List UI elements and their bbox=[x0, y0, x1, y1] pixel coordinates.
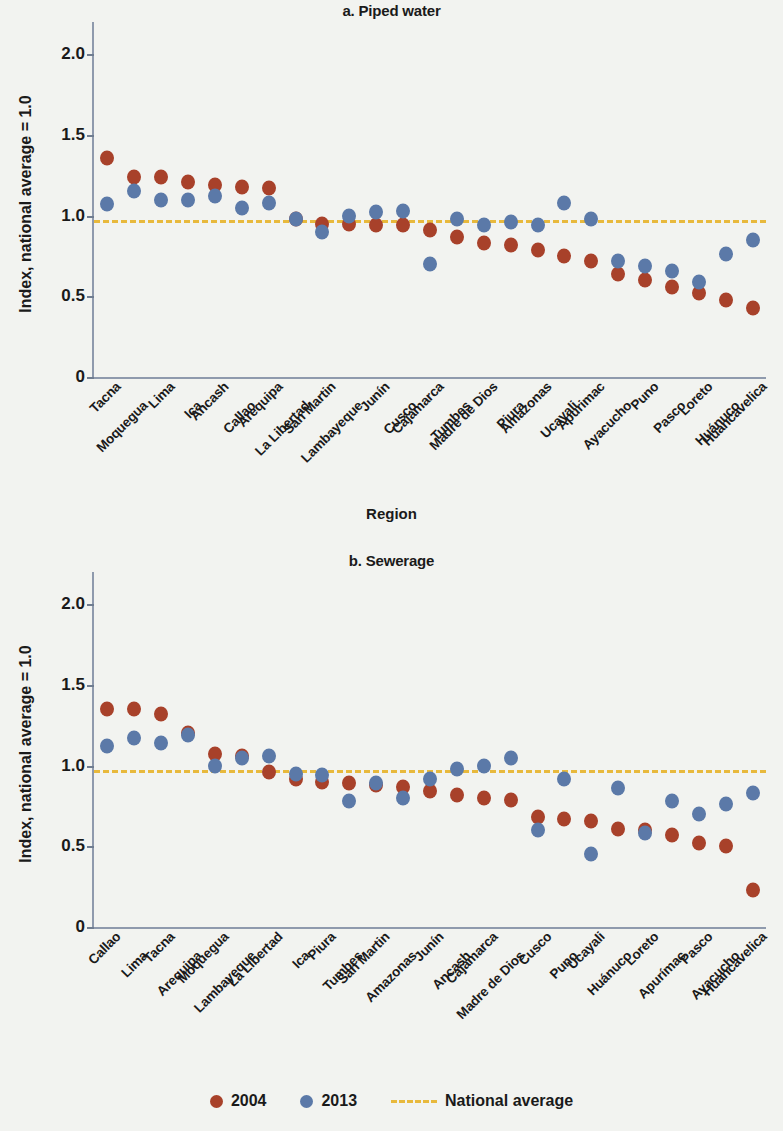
data-point-2013-ucayali bbox=[584, 847, 598, 862]
data-point-2004-tumbes bbox=[450, 229, 464, 244]
data-point-2004-apurímac bbox=[665, 828, 679, 843]
data-point-2013-tumbes bbox=[450, 211, 464, 226]
data-point-2004-madre-de-dios bbox=[504, 792, 518, 807]
data-point-2013-piura bbox=[315, 768, 329, 783]
x-tick-label-la-libertad: La Libertad bbox=[225, 929, 286, 990]
panel-b-plot-area: 00.51.01.52.0 bbox=[92, 572, 766, 929]
data-point-2013-cusco bbox=[531, 823, 545, 838]
y-tick-1.5: 1.5 bbox=[61, 675, 94, 695]
data-point-2004-moquegua bbox=[127, 169, 141, 184]
data-point-2004-apurimac bbox=[584, 253, 598, 268]
x-tick-label-tacna: Tacna bbox=[141, 929, 178, 966]
panel-a-plot-area: 00.51.01.52.0 bbox=[92, 22, 766, 379]
data-point-2013-ancash bbox=[208, 189, 222, 204]
data-point-2004-cajamarca bbox=[423, 223, 437, 238]
data-point-2004-arequipa bbox=[262, 181, 276, 196]
data-point-2013-apurimac bbox=[584, 211, 598, 226]
data-point-2004-ucayali bbox=[584, 813, 598, 828]
panel-b-x-tick-labels: CallaoLimaTacnaArequipaMoqueguaLambayequ… bbox=[92, 929, 764, 1049]
legend-dashed-line-icon bbox=[391, 1100, 437, 1103]
data-point-2004-cajamarca bbox=[477, 790, 491, 805]
data-point-2004-cusco bbox=[396, 218, 410, 233]
data-point-2004-lima bbox=[127, 702, 141, 717]
x-tick-label-loreto: Loreto bbox=[622, 929, 661, 968]
data-point-2013-cusco bbox=[396, 203, 410, 218]
data-point-2013-huancavelica bbox=[746, 232, 760, 247]
data-point-2013-cajamarca bbox=[423, 257, 437, 272]
panel-b-y-axis-label: Index, national average = 1.0 bbox=[17, 624, 35, 884]
data-point-2004-la-libertad bbox=[262, 765, 276, 780]
data-point-2013-ayacucho bbox=[719, 797, 733, 812]
legend-label: National average bbox=[445, 1093, 573, 1109]
panel-a-title: a. Piped water bbox=[0, 2, 783, 19]
data-point-2004-pasco bbox=[665, 279, 679, 294]
legend-label: 2004 bbox=[231, 1093, 267, 1109]
legend-dot-icon-2013 bbox=[300, 1095, 313, 1108]
data-point-2013-amazonas bbox=[396, 790, 410, 805]
data-point-2004-tacna bbox=[100, 150, 114, 165]
data-point-2004-pasco bbox=[692, 836, 706, 851]
data-point-2013-arequipa bbox=[181, 727, 195, 742]
x-tick-label-loreto: Loreto bbox=[676, 379, 715, 418]
y-tick-0.5: 0.5 bbox=[61, 836, 94, 856]
data-point-2013-amazonas bbox=[531, 218, 545, 233]
x-tick-label-junín: Junín bbox=[357, 379, 392, 414]
data-point-2004-tacna bbox=[154, 707, 168, 722]
data-point-2013-loreto bbox=[692, 274, 706, 289]
data-point-2004-huancavelica bbox=[746, 300, 760, 315]
data-point-2013-ucayali bbox=[557, 195, 571, 210]
data-point-2013-tacna bbox=[100, 197, 114, 212]
y-tick-2.0: 2.0 bbox=[61, 594, 94, 614]
x-tick-label-callao: Callao bbox=[86, 929, 124, 967]
data-point-2013-ayacucho bbox=[611, 253, 625, 268]
data-point-2013-piura bbox=[504, 215, 518, 230]
data-point-2004-ica bbox=[181, 174, 195, 189]
data-point-2013-lambayeque bbox=[235, 750, 249, 765]
data-point-2013-apurímac bbox=[665, 794, 679, 809]
legend-item-2013: 2013 bbox=[300, 1093, 357, 1109]
data-point-2013-puno bbox=[557, 771, 571, 786]
data-point-2013-san-martin bbox=[315, 224, 329, 239]
data-point-2013-ica bbox=[181, 192, 195, 207]
data-point-2013-cajamarca bbox=[477, 758, 491, 773]
data-point-2013-loreto bbox=[638, 826, 652, 841]
data-point-2004-amazonas bbox=[531, 242, 545, 257]
chart-panel-sewerage: b. Sewerage Index, national average = 1.… bbox=[0, 550, 783, 1090]
y-tick-1.0: 1.0 bbox=[61, 206, 94, 226]
data-point-2004-junín bbox=[423, 784, 437, 799]
data-point-2004-tumbes bbox=[342, 776, 356, 791]
data-point-2013-lima bbox=[154, 192, 168, 207]
panel-a-x-axis-label: Region bbox=[0, 505, 783, 522]
data-point-2013-madre-de-dios bbox=[504, 750, 518, 765]
data-point-2013-callao bbox=[235, 200, 249, 215]
data-point-2013-junín bbox=[423, 771, 437, 786]
data-point-2013-huánuco bbox=[719, 247, 733, 262]
x-tick-label-junín: Junín bbox=[411, 929, 446, 964]
x-tick-label-lima: Lima bbox=[145, 379, 177, 411]
x-tick-label-tacna: Tacna bbox=[87, 379, 124, 416]
data-point-2004-huánuco bbox=[719, 292, 733, 307]
data-point-2004-junín bbox=[369, 218, 383, 233]
figure-container: a. Piped water Index, national average =… bbox=[0, 0, 783, 1131]
data-point-2013-puno bbox=[638, 258, 652, 273]
data-point-2013-lambayeque bbox=[342, 208, 356, 223]
data-point-2013-la-libertad bbox=[262, 748, 276, 763]
data-point-2013-junín bbox=[369, 205, 383, 220]
data-point-2004-ancash bbox=[450, 787, 464, 802]
data-point-2013-ica bbox=[289, 766, 303, 781]
data-point-2004-ayacucho bbox=[611, 266, 625, 281]
x-tick-label-pasco: Pasco bbox=[677, 929, 715, 967]
y-tick-0.5: 0.5 bbox=[61, 286, 94, 306]
data-point-2013-san-martin bbox=[369, 776, 383, 791]
data-point-2013-pasco bbox=[665, 263, 679, 278]
data-point-2013-madre-de-dios bbox=[477, 218, 491, 233]
legend-dot-icon-2004 bbox=[210, 1095, 223, 1108]
chart-legend: 20042013National average bbox=[0, 1093, 783, 1109]
data-point-2004-piura bbox=[504, 237, 518, 252]
data-point-2004-huánuco bbox=[611, 821, 625, 836]
y-tick-2.0: 2.0 bbox=[61, 44, 94, 64]
data-point-2013-tacna bbox=[154, 736, 168, 751]
legend-label: 2013 bbox=[321, 1093, 357, 1109]
data-point-2013-moquegua bbox=[127, 184, 141, 199]
x-tick-label-piura: Piura bbox=[305, 929, 339, 963]
